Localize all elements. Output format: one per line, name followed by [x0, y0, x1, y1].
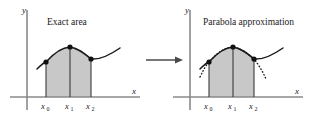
panel-exact-area: y x Exact area x 0 x 1 x 2 [0, 0, 164, 124]
svg-text:x: x [85, 101, 90, 111]
svg-text:0: 0 [210, 106, 213, 112]
svg-text:2: 2 [255, 106, 258, 112]
simpsons-rule-figure: y x Exact area x 0 x 1 x 2 [0, 0, 327, 124]
svg-text:x: x [203, 101, 208, 111]
data-point-x2 [251, 56, 256, 61]
y-axis-label: y [21, 5, 26, 15]
x-axis-label: x [131, 86, 136, 96]
tick-label-x2: x 2 [85, 101, 94, 112]
x-axis-label: x [294, 86, 299, 96]
panel-title: Exact area [47, 17, 88, 27]
svg-text:x: x [227, 101, 232, 111]
data-point-x2 [88, 56, 93, 61]
tick-label-x1: x 1 [64, 101, 73, 112]
svg-text:x: x [64, 101, 69, 111]
panel-parabola-approximation: y x Parabola approximation x 0 x 1 x 2 [163, 0, 327, 124]
svg-text:1: 1 [234, 106, 237, 112]
tick-label-x2: x 2 [248, 101, 257, 112]
data-point-x0 [43, 59, 48, 64]
tick-label-x0: x 0 [40, 101, 49, 112]
svg-text:x: x [40, 101, 45, 111]
data-point-x1 [230, 44, 235, 49]
svg-text:2: 2 [92, 106, 95, 112]
panel-title: Parabola approximation [203, 17, 294, 27]
svg-text:x: x [248, 101, 253, 111]
svg-text:1: 1 [71, 106, 74, 112]
data-point-x1 [67, 44, 72, 49]
tick-label-x0: x 0 [203, 101, 212, 112]
y-axis-label: y [184, 5, 189, 15]
data-point-x0 [206, 59, 211, 64]
tick-label-x1: x 1 [227, 101, 236, 112]
svg-text:0: 0 [47, 106, 50, 112]
